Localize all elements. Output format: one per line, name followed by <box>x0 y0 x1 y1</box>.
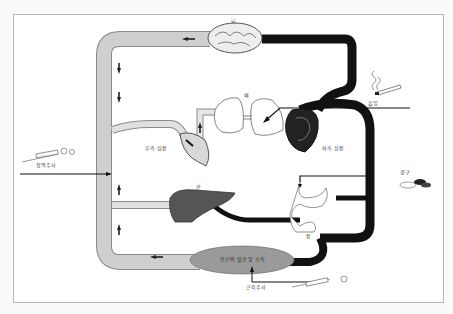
label-brain: 뇌 <box>231 19 236 24</box>
stomach-intestine <box>290 176 368 232</box>
cigarette-icon <box>372 71 401 95</box>
label-im-injection: 근육주사 <box>246 285 266 290</box>
pills-icon <box>400 179 431 188</box>
label-intestine: 장 <box>306 234 311 239</box>
lungs <box>214 98 283 136</box>
syringe-icon-iv <box>22 148 75 162</box>
label-right-heart: 우측 심장 <box>145 146 167 151</box>
label-iv-injection: 정맥주사 <box>36 163 56 168</box>
label-inhalation: 흡입 <box>368 101 378 106</box>
label-left-heart: 좌측 심장 <box>322 146 344 151</box>
circulation-diagram <box>0 0 453 314</box>
liver <box>170 190 235 222</box>
label-tissue: 전신의 혈관 및 조직 <box>220 257 265 262</box>
arterial-vessels <box>213 39 370 262</box>
label-lungs: 폐 <box>244 93 249 98</box>
left-heart <box>286 109 319 152</box>
label-liver: 간 <box>196 185 201 190</box>
right-heart <box>180 133 209 166</box>
inhalation-route <box>263 108 410 123</box>
brain <box>208 23 262 53</box>
label-oral: 경구 <box>400 170 410 175</box>
